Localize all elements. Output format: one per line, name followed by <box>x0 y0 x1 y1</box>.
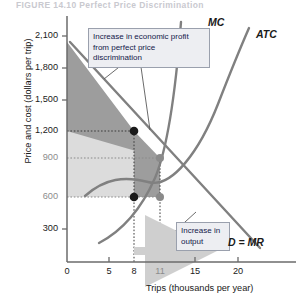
x-axis-label: Trips (thousands per year) <box>146 283 253 293</box>
y-tick-900: 900 <box>10 152 58 162</box>
x-tick-8: 8 <box>122 266 146 276</box>
callout-increase-in-output: Increase in output <box>176 222 230 251</box>
y-tick-1500: 1,500 <box>10 94 58 104</box>
x-tick-15: 15 <box>183 266 207 276</box>
marker-single-cost <box>130 193 139 202</box>
y-tick-1200: 1,200 <box>10 125 58 135</box>
curve-label-demand-mr: D = MR <box>228 236 264 248</box>
curve-label-mc: MC <box>208 16 224 28</box>
y-tick-600: 600 <box>10 191 58 201</box>
marker-pd-cost <box>156 193 164 201</box>
y-tick-1800: 1,800 <box>10 62 58 72</box>
marker-pd-output <box>156 154 164 162</box>
region-increase-in-profit-b <box>134 131 160 197</box>
figure-perfect-price-discrimination: FIGURE 14.10 Perfect Price Discriminatio… <box>0 0 298 299</box>
y-tick-300: 300 <box>10 223 58 233</box>
callout-increase-in-profit: Increase in economic profit from perfect… <box>88 28 210 68</box>
x-tick-11: 11 <box>148 266 172 276</box>
y-tick-2100: 2,100 <box>10 30 58 40</box>
x-tick-5: 5 <box>97 266 121 276</box>
curve-label-atc: ATC <box>256 28 277 40</box>
x-tick-0: 0 <box>55 266 79 276</box>
x-tick-20: 20 <box>226 266 250 276</box>
marker-single-price <box>130 127 139 136</box>
